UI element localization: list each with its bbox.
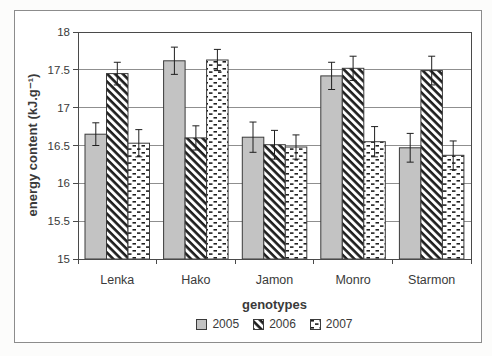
bar-2007-starmon [442,155,464,259]
bar-2006-jamon [264,145,286,259]
bar-2005-monro [321,76,343,259]
legend: 200520062007 [78,317,471,331]
legend-swatch-2007 [310,319,321,330]
legend-swatch-2005 [196,319,207,330]
legend-item-2005: 2005 [196,317,239,331]
bar-2005-jamon [242,137,263,259]
chart-plot-svg: 1515.51616.51717.518LenkaHakoJamonMonroS… [15,11,481,295]
category-label: Starmon [408,273,455,287]
page-background: energy content (kJ.g⁻¹) 1515.51616.51717… [0,0,492,356]
bar-2005-starmon [399,148,421,259]
y-tick-label: 16.5 [48,140,70,152]
category-label: Monro [335,273,370,287]
legend-label-2005: 2005 [212,317,239,331]
chart-frame: energy content (kJ.g⁻¹) 1515.51616.51717… [14,10,482,343]
legend-label-2006: 2006 [269,317,296,331]
bar-2006-hako [185,138,207,259]
x-axis-title: genotypes [78,297,471,312]
y-tick-label: 17.5 [48,64,70,76]
bar-2007-jamon [285,147,307,259]
bar-2007-hako [207,60,229,259]
bar-2007-monro [364,142,386,259]
category-label: Hako [181,273,210,287]
y-tick-label: 15 [57,253,70,265]
bar-2005-lenka [85,134,107,259]
y-tick-label: 18 [57,26,70,38]
bar-2006-lenka [107,74,129,259]
legend-swatch-2006 [253,319,264,330]
bar-2006-starmon [421,71,443,259]
y-tick-label: 15.5 [48,215,70,227]
bar-2005-hako [164,61,186,259]
legend-item-2007: 2007 [310,317,353,331]
legend-label-2007: 2007 [326,317,353,331]
category-label: Lenka [100,273,134,287]
bar-2007-lenka [128,143,150,259]
bar-2006-monro [342,68,364,259]
plot-area: 1515.51616.51717.518LenkaHakoJamonMonroS… [15,11,481,295]
legend-item-2006: 2006 [253,317,296,331]
y-tick-label: 16 [57,177,70,189]
y-tick-label: 17 [57,102,70,114]
category-label: Jamon [256,273,294,287]
